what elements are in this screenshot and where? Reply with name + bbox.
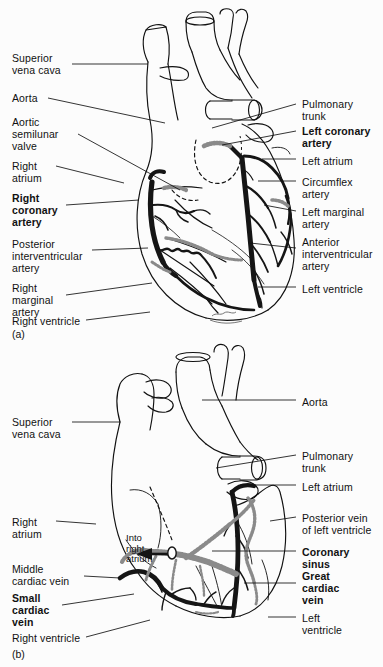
label-left-marginal-artery: Left marginal artery bbox=[302, 206, 364, 230]
panel-b-posterior-view: Superior vena cava Right atrium Middle c… bbox=[0, 340, 383, 667]
label-pulmonary-trunk-b: Pulmonary trunk bbox=[302, 450, 353, 474]
label-left-atrium-a: Left atrium bbox=[302, 155, 353, 167]
label-aorta-b: Aorta bbox=[302, 396, 328, 408]
label-left-ventricle-a: Left ventricle bbox=[302, 283, 363, 295]
label-anterior-interventricular-artery: Anterior interventricular artery bbox=[302, 236, 373, 273]
label-right-marginal-artery: Right marginal artery bbox=[12, 282, 53, 319]
anatomy-figure: Superior vena cava Aorta Aortic semiluna… bbox=[0, 0, 383, 667]
label-superior-vena-cava-b: Superior vena cava bbox=[12, 416, 61, 440]
label-right-ventricle-a: Right ventricle bbox=[12, 315, 80, 327]
label-middle-cardiac-vein: Middle cardiac vein bbox=[12, 563, 69, 587]
label-left-atrium-b: Left atrium bbox=[302, 481, 353, 493]
label-small-cardiac-vein: Small cardiac vein bbox=[12, 592, 50, 629]
label-right-atrium-b: Right atrium bbox=[12, 516, 42, 540]
panel-letter-b: (b) bbox=[12, 648, 25, 660]
label-left-coronary-artery: Left coronary artery bbox=[302, 125, 370, 149]
annotation-into-right-atrium: Into right atrium bbox=[126, 533, 152, 565]
label-superior-vena-cava-a: Superior vena cava bbox=[12, 52, 61, 76]
label-aortic-semilunar-valve: Aortic semilunar valve bbox=[12, 116, 58, 153]
panel-letter-a: (a) bbox=[12, 328, 25, 340]
label-left-ventricle-b: Left ventricle bbox=[302, 612, 342, 636]
label-right-coronary-artery: Right coronary artery bbox=[12, 192, 58, 229]
panel-a-anterior-view: Superior vena cava Aorta Aortic semiluna… bbox=[0, 0, 383, 340]
label-pulmonary-trunk-a: Pulmonary trunk bbox=[302, 98, 353, 122]
label-right-atrium-a: Right atrium bbox=[12, 160, 42, 184]
label-coronary-sinus: Coronary sinus bbox=[302, 546, 350, 570]
label-aorta-a: Aorta bbox=[12, 92, 38, 104]
leader-lines-b bbox=[56, 400, 296, 637]
label-posterior-interventricular-artery: Posterior interventricular artery bbox=[12, 238, 83, 275]
label-great-cardiac-vein: Great cardiac vein bbox=[302, 570, 340, 607]
label-posterior-vein-of-left-ventricle: Posterior vein of left ventricle bbox=[302, 512, 371, 536]
label-circumflex-artery: Circumflex artery bbox=[302, 176, 353, 200]
label-right-ventricle-b: Right ventricle bbox=[12, 632, 80, 644]
